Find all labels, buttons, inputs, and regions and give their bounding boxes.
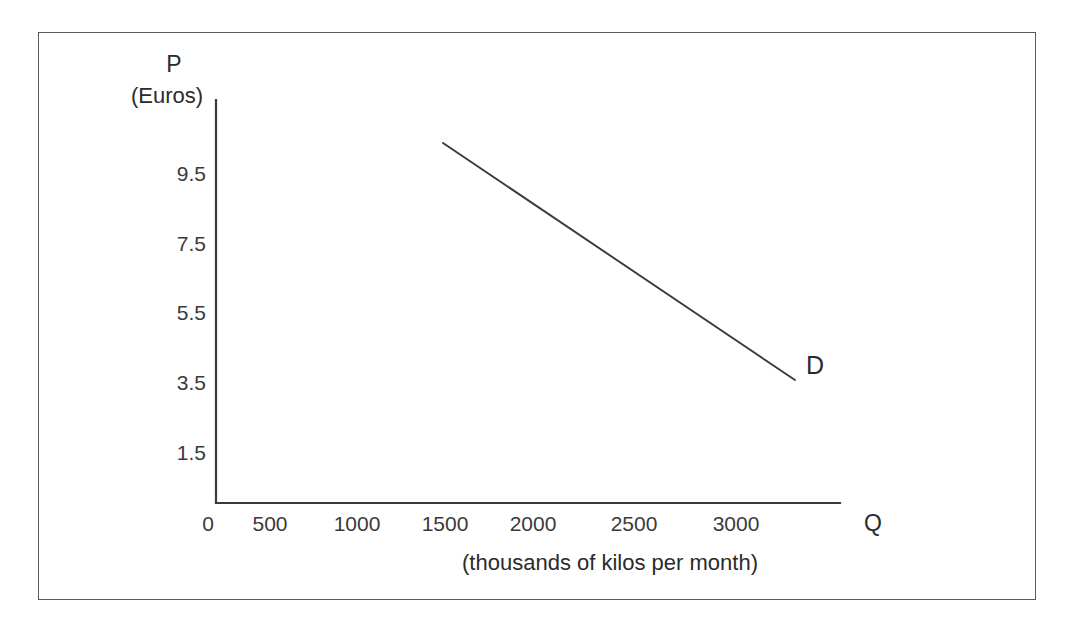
x-tick-label: 0 — [202, 512, 214, 535]
y-tick-label: 1.5 — [177, 441, 206, 464]
demand-curve-label: D — [806, 351, 824, 379]
y-tick-label: 9.5 — [177, 162, 206, 185]
x-tick-label: 1500 — [422, 512, 469, 535]
x-tick-label: 1000 — [334, 512, 381, 535]
y-tick-label: 5.5 — [177, 301, 206, 324]
y-axis-title-symbol: P — [166, 51, 181, 77]
x-tick-label: 500 — [252, 512, 287, 535]
x-tick-label: 3000 — [713, 512, 760, 535]
x-tick-label: 2500 — [611, 512, 658, 535]
figure-canvas: P (Euros) 9.5 7.5 5.5 3.5 1.5 0 500 1000… — [0, 0, 1078, 633]
demand-curve-line — [443, 143, 795, 380]
x-tick-label: 2000 — [510, 512, 557, 535]
y-tick-label: 3.5 — [177, 371, 206, 394]
y-axis-title-unit: (Euros) — [131, 83, 203, 108]
y-tick-label: 7.5 — [177, 232, 206, 255]
x-axis-title-symbol: Q — [864, 510, 882, 536]
x-axis-title-unit: (thousands of kilos per month) — [462, 550, 758, 575]
demand-curve-chart: P (Euros) 9.5 7.5 5.5 3.5 1.5 0 500 1000… — [0, 0, 1078, 633]
